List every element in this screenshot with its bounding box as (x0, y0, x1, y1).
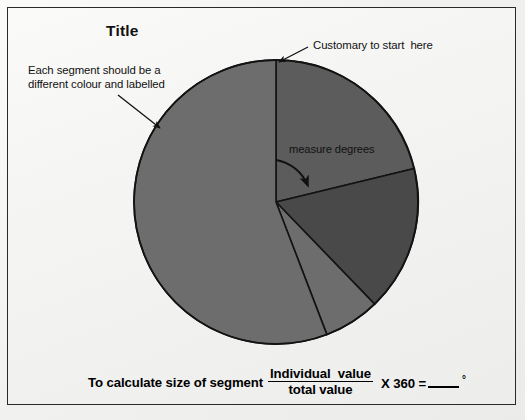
formula-denominator: total value (288, 382, 352, 397)
formula-fraction: Individual value total value (268, 367, 373, 397)
formula-line: To calculate size of segment Individual … (88, 368, 466, 398)
start-callout-leader-icon (279, 47, 308, 62)
pie-chart-graphic (0, 0, 525, 420)
formula-lead-text: To calculate size of segment (88, 375, 268, 390)
formula-answer-blank (428, 375, 459, 388)
left-callout-leader-icon (118, 95, 160, 128)
formula-multiplier: X 360 = (381, 376, 426, 391)
left-callout-label: Each segment should be a different colou… (28, 64, 165, 92)
formula-tail: X 360 = ° (373, 375, 466, 391)
formula-numerator: Individual value (268, 367, 373, 382)
measure-degrees-label: measure degrees (289, 143, 375, 157)
degree-symbol: ° (462, 374, 466, 385)
page-title: Title (106, 22, 139, 41)
start-callout-label: Customary to start here (313, 39, 433, 53)
slide-canvas: Title Each segment should be a different… (0, 0, 525, 420)
